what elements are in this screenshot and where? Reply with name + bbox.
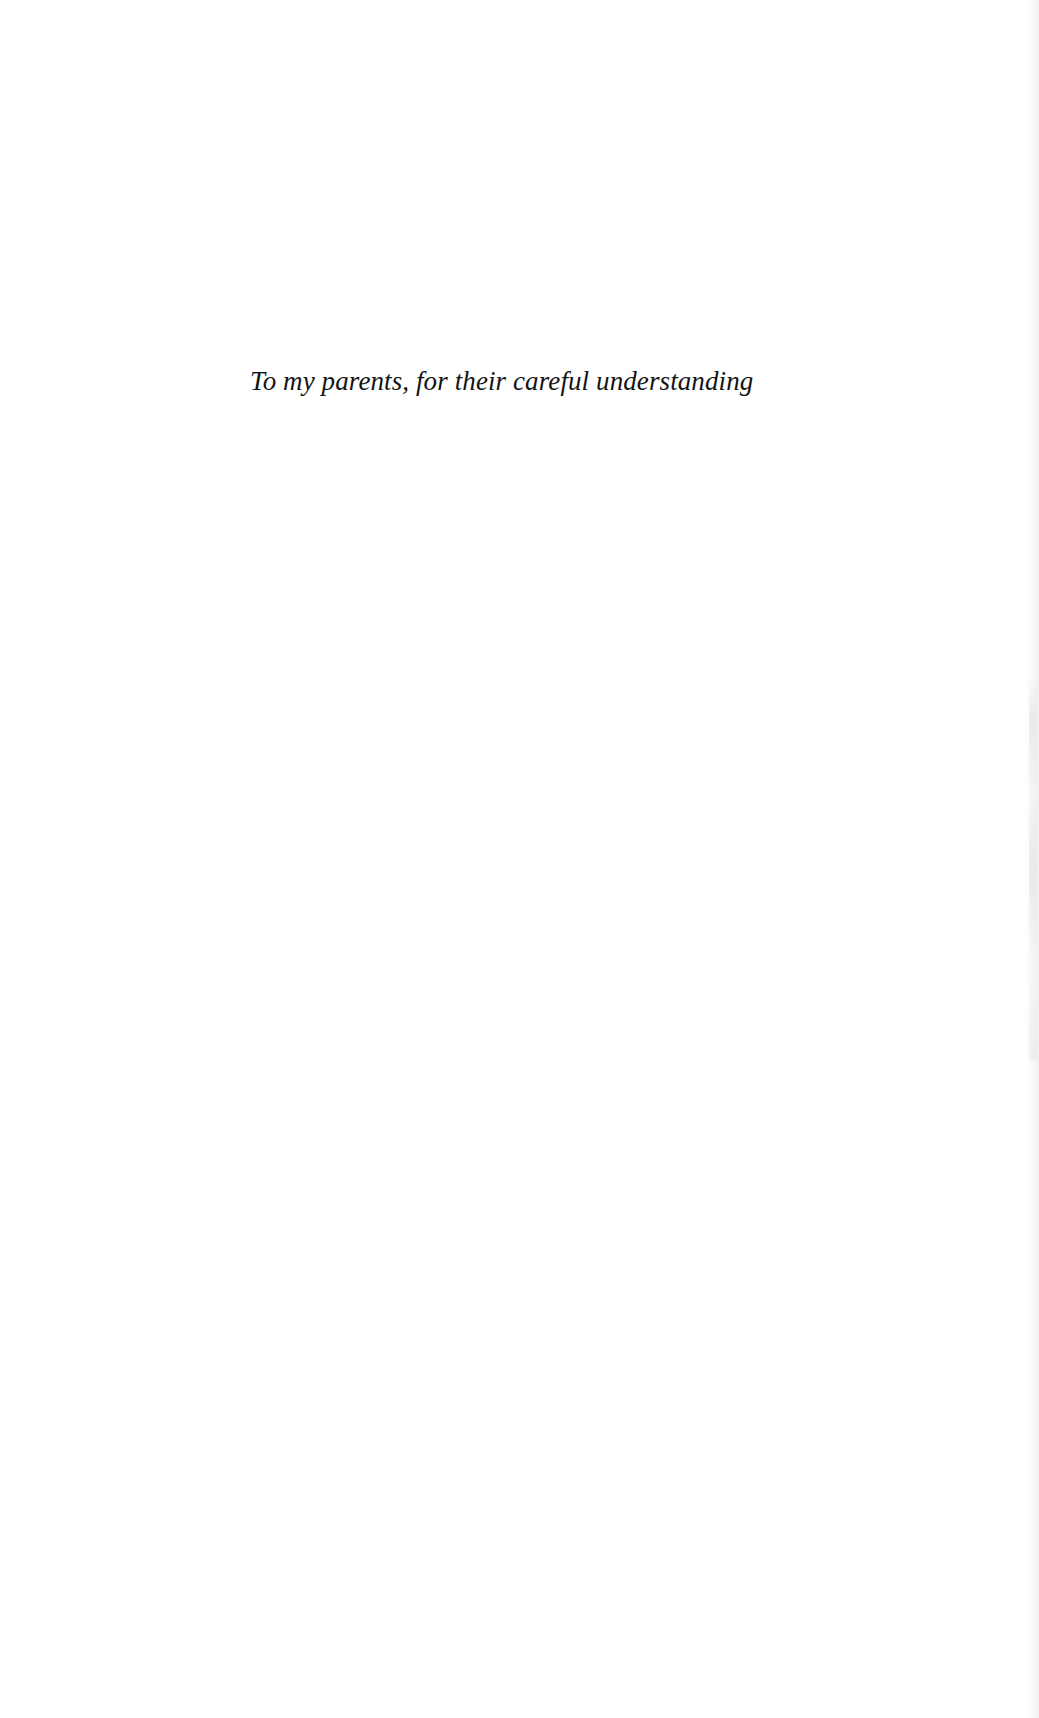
dedication-text: To my parents, for their careful underst… (250, 364, 720, 398)
book-page: To my parents, for their careful underst… (0, 0, 1039, 1718)
scan-edge-artifact (1029, 680, 1037, 1060)
